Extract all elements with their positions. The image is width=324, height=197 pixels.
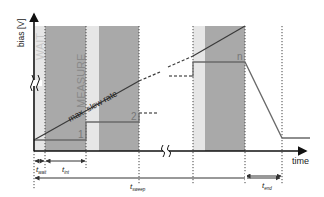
step-label-1: 1 — [78, 129, 84, 140]
measure-band-n — [205, 26, 245, 151]
diagram-canvas: WAIT MEASURE max. slew rate 1 2 n bias [… — [0, 0, 324, 197]
t-end-label: tend — [262, 181, 272, 191]
slew-rate-line-dashed — [139, 72, 160, 81]
step-label-2: 2 — [131, 111, 137, 122]
wait-band-n — [193, 26, 205, 151]
t-wait-label: twait — [36, 165, 47, 175]
wait-band-2 — [86, 26, 99, 151]
bias-sweep-timing-diagram: WAIT MEASURE max. slew rate 1 2 n bias [… — [0, 0, 324, 197]
dimension-gap — [245, 173, 247, 181]
y-axis-label: bias [V] — [16, 19, 26, 47]
wait-label: WAIT — [34, 33, 46, 60]
x-axis-label: time — [292, 156, 309, 166]
slew-rate-line-dashed — [168, 56, 193, 67]
measure-band-2 — [99, 26, 139, 151]
t-int-label: tint — [62, 165, 70, 175]
t-sweep-label: tsweep — [130, 182, 146, 192]
measure-label: MEASURE — [75, 54, 87, 108]
step-label-n: n — [237, 51, 243, 62]
